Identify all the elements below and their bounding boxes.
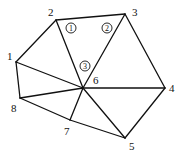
element-number: 1 xyxy=(69,24,73,33)
node-label-1: 1 xyxy=(7,50,13,62)
edge-3-4 xyxy=(125,14,165,88)
element-number: 3 xyxy=(83,62,87,71)
element-number: 2 xyxy=(105,24,109,33)
edge-7-6 xyxy=(70,88,83,120)
edge-8-1 xyxy=(16,62,20,98)
mesh-edges xyxy=(16,14,165,138)
node-label-7: 7 xyxy=(64,125,70,137)
element-label-2: 2 xyxy=(102,23,112,33)
node-label-4: 4 xyxy=(169,82,175,94)
edge-8-6 xyxy=(20,88,83,98)
element-label-1: 1 xyxy=(66,23,76,33)
edge-1-6 xyxy=(16,62,83,88)
edge-4-5 xyxy=(125,88,165,138)
edge-1-2 xyxy=(16,20,56,62)
element-label-3: 3 xyxy=(80,61,90,71)
node-label-5: 5 xyxy=(129,140,135,152)
node-labels: 12345678 xyxy=(7,6,175,152)
node-label-6: 6 xyxy=(93,74,99,86)
node-label-3: 3 xyxy=(132,6,138,18)
mesh-diagram: 123 12345678 xyxy=(0,0,185,154)
edge-7-8 xyxy=(20,98,70,120)
node-label-2: 2 xyxy=(48,6,54,18)
node-label-8: 8 xyxy=(11,102,17,114)
edge-2-3 xyxy=(56,14,125,20)
